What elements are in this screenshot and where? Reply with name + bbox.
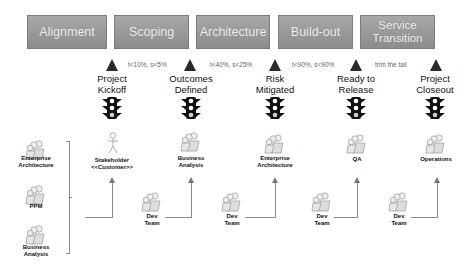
criteria-build-out: t<90%, s<90% [292, 61, 334, 68]
left-group-enterprise-architecture: Enterprise Architecture [4, 155, 68, 169]
dev-team-label: Dev Team [200, 213, 264, 227]
connector-line [85, 217, 113, 218]
people-group-icon [180, 132, 202, 152]
dev-team-label: Dev Team [367, 213, 431, 227]
group-bracket-bottom [66, 253, 70, 254]
dev-team-label: Dev Team [120, 213, 184, 227]
people-group-icon [25, 225, 47, 245]
left-group-ppm: PPM [4, 203, 68, 210]
arrow-up-icon [434, 177, 440, 183]
milestone-marker-icon [269, 59, 281, 71]
milestone-label-ready-to-release: Ready to Release [321, 73, 391, 95]
traffic-light-icon [265, 96, 285, 120]
traffic-light-icon [425, 96, 445, 120]
arrow-up-icon [354, 177, 360, 183]
role-label-stakeholder: Stakeholder <<Customer>> [80, 157, 144, 171]
phase-architecture: Architecture [196, 15, 270, 49]
people-group-icon [346, 134, 368, 154]
role-label-qa: QA [325, 156, 389, 163]
milestone-marker-icon [430, 59, 442, 71]
criteria-service-transition: trim the tail [375, 61, 407, 68]
connector-line [334, 217, 358, 218]
dev-team-label: Dev Team [290, 213, 354, 227]
left-group-business-analysis: Business Analysis [4, 244, 68, 258]
connector-line [165, 217, 192, 218]
people-group-icon [25, 185, 47, 205]
arrow-up-icon [272, 177, 278, 183]
phase-service-transition: Service Transition [360, 15, 435, 49]
traffic-light-icon [181, 96, 201, 120]
connector-line [245, 217, 276, 218]
phase-scoping: Scoping [114, 15, 189, 49]
connector-line [112, 182, 113, 218]
connector-line [411, 217, 438, 218]
group-bracket-tick [70, 197, 72, 198]
people-group-icon [221, 192, 243, 212]
role-label-operations: Operations [404, 156, 468, 163]
connector-line [275, 182, 276, 218]
milestone-label-risk-mitigated: Risk Mitigated [240, 73, 310, 95]
people-group-icon [388, 192, 410, 212]
connector-line [357, 182, 358, 218]
milestone-label-project-kickoff: Project Kickoff [77, 73, 147, 95]
milestone-marker-icon [184, 59, 196, 71]
people-group-icon [141, 192, 163, 212]
traffic-light-icon [346, 96, 366, 120]
group-bracket-top [66, 141, 70, 142]
phase-build-out: Build-out [278, 15, 353, 49]
people-group-icon [425, 134, 447, 154]
traffic-light-icon [102, 96, 122, 120]
connector-line [191, 182, 192, 218]
people-group-icon [264, 134, 286, 154]
arrow-up-icon [109, 177, 115, 183]
phase-alignment: Alignment [27, 15, 107, 49]
milestone-label-project-closeout: Project Closeout [400, 73, 470, 95]
milestone-label-outcomes-defined: Outcomes Defined [156, 73, 226, 95]
stick-figure-icon [106, 132, 120, 154]
role-label-enterprise-architecture: Enterprise Architecture [243, 155, 307, 169]
arrow-up-icon [188, 177, 194, 183]
milestone-marker-icon [106, 59, 118, 71]
criteria-scoping: t<10%, s<5% [128, 61, 167, 68]
milestone-marker-icon [350, 59, 362, 71]
connector-line [437, 182, 438, 218]
people-group-icon [311, 192, 333, 212]
criteria-architecture: t<40%, s<25% [210, 61, 252, 68]
role-label-business-analysis: Business Analysis [159, 155, 223, 169]
